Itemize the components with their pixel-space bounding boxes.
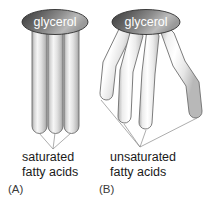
saturated-tail-3 <box>64 28 79 134</box>
panel-b-glycerol-head: glycerol <box>112 10 180 35</box>
caption-unsaturated: unsaturated fatty acids <box>110 150 176 180</box>
panel-a-leader-lines <box>39 133 71 149</box>
caption-unsaturated-line2: fatty acids <box>110 165 166 179</box>
glycerol-label-b: glycerol <box>124 15 167 29</box>
panel-label-b: (B) <box>99 183 114 195</box>
glycerol-label-a: glycerol <box>33 15 76 29</box>
unsaturated-tail-4 <box>160 29 202 118</box>
caption-saturated-line1: saturated <box>22 150 74 164</box>
caption-saturated: saturated fatty acids <box>22 150 78 180</box>
saturated-tail-1 <box>32 28 47 134</box>
panel-a-glycerol-head: glycerol <box>22 10 88 35</box>
panel-label-a: (A) <box>8 183 23 195</box>
panel-a-structure: glycerol <box>22 10 88 150</box>
saturated-tail-2 <box>48 28 63 134</box>
panel-a-tails <box>32 28 79 134</box>
panel-b-structure: glycerol <box>100 10 202 148</box>
caption-unsaturated-line1: unsaturated <box>110 150 176 164</box>
panel-b-tails <box>100 29 202 129</box>
caption-saturated-line2: fatty acids <box>22 165 78 179</box>
unsaturated-tail-3 <box>139 29 159 129</box>
fatty-acid-diagram: glycerol <box>0 0 207 205</box>
